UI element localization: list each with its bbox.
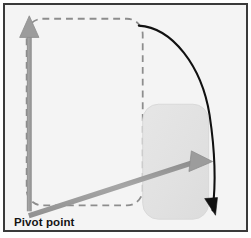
- vertical-reference-arrow-shaft: [27, 30, 32, 212]
- pivot-point-label: Pivot point: [14, 215, 75, 229]
- figure-frame: Pivot point: [3, 3, 248, 232]
- figure-root: Pivot point: [0, 0, 251, 238]
- diagram-canvas: [5, 5, 246, 230]
